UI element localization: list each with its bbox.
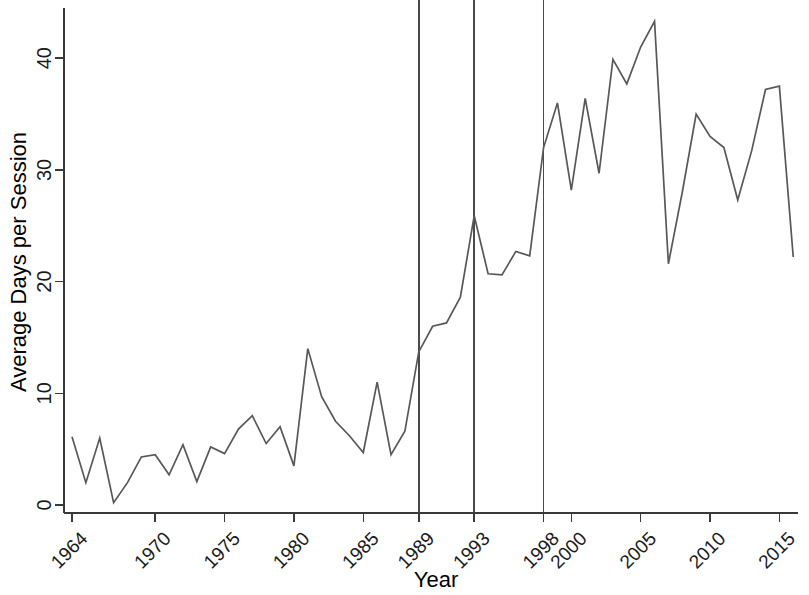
chart-figure: 010203040 196419701975198019851989199319… xyxy=(0,0,809,595)
x-axis-tick-label: 1970 xyxy=(130,528,175,573)
line-chart-plot: 010203040 196419701975198019851989199319… xyxy=(0,0,809,595)
axes-group xyxy=(64,8,798,513)
y-axis-tick-label: 30 xyxy=(33,159,55,181)
x-axis-tick-label: 2015 xyxy=(754,528,799,573)
y-axis-ticks-group: 010203040 xyxy=(33,47,64,510)
x-axis-tick-label: 2005 xyxy=(615,528,660,573)
x-axis-tick-label: 1980 xyxy=(269,528,314,573)
reference-lines-group xyxy=(419,0,544,513)
x-axis-tick-label: 1964 xyxy=(47,527,92,572)
y-axis-tick-label: 40 xyxy=(33,47,55,69)
y-axis-tick-label: 0 xyxy=(33,499,55,510)
x-axis-tick-label: 2010 xyxy=(685,528,730,573)
x-axis-ticks-group: 1964197019751980198519891993199820002005… xyxy=(47,513,799,572)
x-axis-tick-label: 1993 xyxy=(449,528,494,573)
y-axis-tick-label: 10 xyxy=(33,382,55,404)
x-axis-tick-label: 1985 xyxy=(338,528,383,573)
y-axis-tick-label: 20 xyxy=(33,270,55,292)
data-series-line xyxy=(72,21,793,502)
y-axis-title: Average Days per Session xyxy=(6,132,31,392)
x-axis-tick-label: 1989 xyxy=(394,528,439,573)
x-axis-title: Year xyxy=(414,567,458,592)
x-axis-tick-label: 1975 xyxy=(199,528,244,573)
